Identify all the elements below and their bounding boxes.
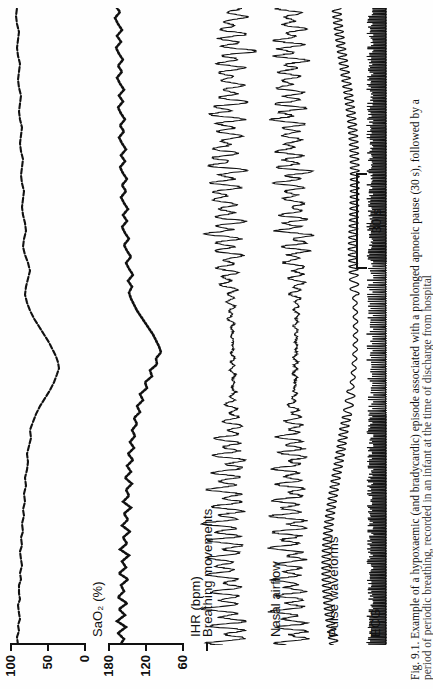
sao2-tick-label-100: 100 xyxy=(3,655,18,677)
trace-breathing xyxy=(196,8,262,645)
ihr-tick-label-180: 180 xyxy=(101,655,116,677)
figure-body: 100 50 0 SaO₂ (%) 180 120 60 IHR (bpm) xyxy=(0,0,392,689)
ihr-tick-label-60: 60 xyxy=(175,655,190,669)
ihr-tick-label-120: 120 xyxy=(138,655,153,677)
trace-nasal xyxy=(262,8,324,645)
figure-caption-line-2: period of periodic breathing, recorded i… xyxy=(421,0,433,680)
trace-ecg xyxy=(362,8,388,645)
trace-pulse xyxy=(320,8,366,645)
channel-label-sao2: SaO₂ (%) xyxy=(90,581,105,637)
sao2-tick-label-0: 0 xyxy=(77,655,92,662)
trace-ihr xyxy=(104,8,184,645)
rotated-figure-stage: 100 50 0 SaO₂ (%) 180 120 60 IHR (bpm) xyxy=(0,0,392,689)
figure-caption-line-1: Fig. 9.1. Example of a hypoxaemic (and b… xyxy=(409,0,421,680)
scale-bar-cap-left xyxy=(356,267,367,269)
sao2-tick-label-50: 50 xyxy=(40,655,55,669)
scale-bar-cap-right xyxy=(356,173,367,175)
scale-bar: 30 s xyxy=(356,173,382,269)
scale-bar-label: 30 s xyxy=(369,209,384,234)
trace-sao2 xyxy=(6,8,86,645)
scale-bar-line xyxy=(356,173,358,269)
